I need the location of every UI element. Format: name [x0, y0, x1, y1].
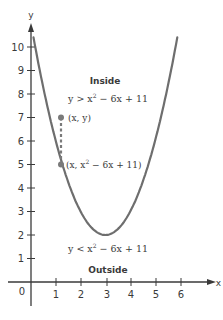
x-tick-label: 5: [153, 289, 159, 300]
x-tick-label: 6: [178, 289, 184, 300]
y-tick-label: 3: [18, 206, 24, 217]
graph-canvas: x y 0 1 2 3 4 5 6 1 2 3 4 5 6 7 8 9: [0, 0, 223, 320]
x-ticks: 1 2 3 4 5 6: [53, 278, 184, 300]
x-tick-label: 3: [104, 289, 110, 300]
y-tick-label: 9: [18, 65, 24, 76]
point-lower-marker: [58, 162, 64, 168]
y-tick-label: 10: [11, 42, 24, 53]
parabola-curve: [34, 37, 178, 235]
x-axis-label: x: [216, 278, 222, 288]
inside-inequality: y > x2 − 6x + 11: [67, 92, 148, 104]
outside-inequality: y < x2 − 6x + 11: [67, 242, 148, 254]
y-axis-arrow-icon: [28, 23, 34, 32]
y-tick-label: 6: [18, 136, 24, 147]
y-tick-label: 8: [18, 89, 24, 100]
origin-label: 0: [19, 286, 25, 297]
point-upper-marker: [58, 115, 64, 121]
y-tick-label: 2: [18, 230, 24, 241]
point-upper-label: (x, y): [68, 113, 91, 123]
y-tick-label: 5: [18, 159, 24, 170]
y-axis-label: y: [28, 10, 34, 20]
outside-title: Outside: [88, 265, 127, 275]
x-axis-arrow-icon: [207, 279, 216, 285]
x-tick-label: 1: [53, 289, 59, 300]
x-tick-label: 4: [128, 289, 134, 300]
x-tick-label: 2: [78, 289, 84, 300]
y-tick-label: 7: [18, 112, 24, 123]
y-tick-label: 1: [18, 253, 24, 264]
y-tick-label: 4: [18, 183, 24, 194]
inside-title: Inside: [90, 76, 121, 86]
point-lower-label: (x, x2 − 6x + 11): [66, 158, 142, 170]
